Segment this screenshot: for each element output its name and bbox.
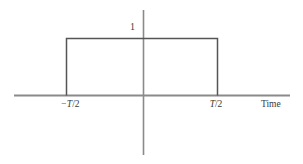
rectangular-pulse-figure: 1 −T/2 T/2 Time — [0, 0, 303, 164]
x-axis-title: Time — [261, 100, 281, 110]
amplitude-label: 1 — [130, 22, 135, 32]
x-tick-label-negative-half-t: −T/2 — [50, 100, 90, 110]
over-two: /2 — [72, 99, 79, 109]
over-two: /2 — [215, 99, 222, 109]
x-tick-label-positive-half-t: T/2 — [196, 100, 236, 110]
plot-canvas — [0, 0, 303, 164]
rect-pulse-curve — [67, 39, 218, 96]
